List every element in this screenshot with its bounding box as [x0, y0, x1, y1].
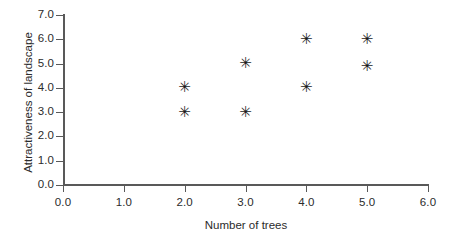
x-tick-mark	[246, 186, 247, 192]
data-point-marker: ✳	[300, 81, 313, 94]
y-tick-mark	[56, 39, 63, 40]
data-point-marker: ✳	[361, 60, 374, 73]
x-tick-mark	[124, 186, 125, 192]
x-tick-label: 0.0	[43, 196, 83, 208]
x-tick-label: 2.0	[165, 196, 205, 208]
data-point-marker: ✳	[178, 106, 191, 119]
y-tick-mark	[56, 88, 63, 89]
y-tick-label-text: 7.0	[24, 9, 54, 21]
x-tick-mark	[367, 186, 368, 192]
x-tick-mark	[63, 186, 64, 192]
y-tick-mark	[56, 161, 63, 162]
plot-area	[63, 15, 429, 185]
y-tick-mark	[56, 64, 63, 65]
y-tick-mark	[56, 112, 63, 113]
x-tick-label: 4.0	[286, 196, 326, 208]
x-tick-mark	[185, 186, 186, 192]
x-axis-title: Number of trees	[63, 219, 429, 232]
x-tick-label: 6.0	[408, 196, 448, 208]
y-tick-mark	[56, 15, 63, 16]
y-tick-mark	[56, 136, 63, 137]
x-tick-label: 5.0	[347, 196, 387, 208]
data-point-marker: ✳	[239, 57, 252, 70]
scatter-chart: 0.01.02.03.04.05.06.07.0 0.01.02.03.04.0…	[0, 0, 449, 241]
data-point-marker: ✳	[178, 81, 191, 94]
y-axis-title: Attractiveness of landscape	[22, 23, 35, 183]
x-tick-mark	[428, 186, 429, 192]
x-tick-mark	[306, 186, 307, 192]
y-tick-mark	[56, 185, 63, 186]
x-tick-label: 1.0	[104, 196, 144, 208]
data-point-marker: ✳	[300, 33, 313, 46]
data-point-marker: ✳	[239, 106, 252, 119]
data-point-marker: ✳	[361, 33, 374, 46]
y-tick-label: 7.0	[16, 9, 54, 21]
x-tick-label: 3.0	[226, 196, 266, 208]
